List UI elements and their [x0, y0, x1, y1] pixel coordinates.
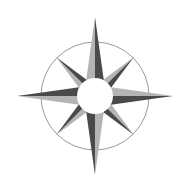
center-circle — [77, 78, 113, 114]
compass-rose-canvas — [0, 0, 185, 189]
compass-rose-icon — [0, 0, 185, 189]
